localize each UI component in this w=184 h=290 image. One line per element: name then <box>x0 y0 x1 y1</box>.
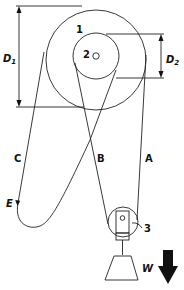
rope-cross <box>90 70 116 140</box>
rope-b <box>75 63 108 224</box>
pulley-3-lower <box>108 207 138 237</box>
pulley-1-large <box>46 10 146 110</box>
downward-force-arrow-icon <box>158 250 178 284</box>
pulley-3-axle <box>120 216 125 221</box>
weight-trapezoid <box>105 256 138 280</box>
rope-c-arrow-icon <box>15 200 20 206</box>
label-pulley-2: 2 <box>83 49 90 60</box>
label-weight-w: W <box>142 263 154 274</box>
label-rope-a: A <box>145 153 153 164</box>
d1-arrow-down-icon <box>17 100 22 107</box>
d2-arrow-up-icon <box>159 34 164 41</box>
label-d1: D1 <box>3 53 16 66</box>
label-d2: D2 <box>166 54 179 67</box>
d1-arrow-up-icon <box>17 6 22 13</box>
differential-pulley-diagram: 1 2 3 D1 D2 A B C E W <box>0 0 184 290</box>
rope-e-loop <box>17 140 90 227</box>
axle-hub <box>93 53 99 59</box>
label-rope-c: C <box>14 153 21 164</box>
label-pulley-3: 3 <box>144 223 151 234</box>
rope-c <box>18 52 44 203</box>
label-pulley-1: 1 <box>76 24 83 35</box>
d2-arrow-down-icon <box>159 71 164 78</box>
label-rope-b: B <box>97 153 105 164</box>
label-end-e: E <box>6 198 13 209</box>
pulley-3-block <box>116 211 129 233</box>
pulley-2-small <box>73 33 119 79</box>
